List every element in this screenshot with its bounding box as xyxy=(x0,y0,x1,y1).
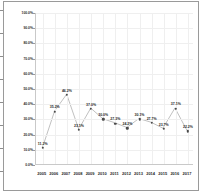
gridline-vertical xyxy=(127,13,128,164)
x-axis-tick-label: 2009 xyxy=(86,171,95,176)
y-axis-tick-label: 20.0% xyxy=(23,133,33,137)
y-axis-tick-label: 10.0% xyxy=(23,148,33,152)
x-axis-tick-label: 2006 xyxy=(49,171,58,176)
x-axis-tick-label: 2011 xyxy=(110,171,119,176)
y-axis-tick-mark xyxy=(33,165,35,166)
y-axis-tick-label: 100.0% xyxy=(22,11,34,15)
data-point-label: 23.1% xyxy=(74,124,84,128)
x-axis-tick-label: 2017 xyxy=(182,171,191,176)
data-point-label: 27.7% xyxy=(147,117,157,121)
y-axis-tick-label: 60.0% xyxy=(23,72,33,76)
chart-screenshot: 100.0%90.0%80.0%70.0%60.0%50.0%40.0%30.0… xyxy=(0,0,201,194)
plot-area: 11.2%35.2%46.2%23.1%37.0%30.0%27.3%24.2%… xyxy=(35,13,193,165)
data-point-label: 30.0% xyxy=(98,113,108,117)
x-axis-tick-label: 2007 xyxy=(61,171,70,176)
y-axis-tick-label: 70.0% xyxy=(23,57,33,61)
y-axis-tick-label: 80.0% xyxy=(23,41,33,45)
x-axis-tick-label: 2008 xyxy=(74,171,83,176)
data-point-label: 30.1% xyxy=(135,113,145,117)
x-axis-labels: 2005200620072008200920102011201220132014… xyxy=(35,168,193,182)
gridline-vertical xyxy=(91,13,92,164)
data-point-label: 27.3% xyxy=(110,117,120,121)
x-axis-tick-label: 2005 xyxy=(37,171,46,176)
line-chart: 100.0%90.0%80.0%70.0%60.0%50.0%40.0%30.0… xyxy=(5,4,197,190)
x-axis-tick-label: 2012 xyxy=(122,171,131,176)
y-axis-tick-label: 30.0% xyxy=(23,117,33,121)
data-point-label: 46.2% xyxy=(62,89,72,93)
gridline-vertical xyxy=(103,13,104,164)
gridline-vertical xyxy=(164,13,165,164)
y-axis-tick-label: 40.0% xyxy=(23,102,33,106)
gridline-vertical xyxy=(55,13,56,164)
data-point-label: 37.1% xyxy=(171,102,181,106)
x-axis-tick-label: 2016 xyxy=(170,171,179,176)
y-axis-tick-label: 90.0% xyxy=(23,26,33,30)
data-point-label: 11.2% xyxy=(38,142,48,146)
data-point-label: 22.2% xyxy=(183,125,193,129)
gridline-vertical xyxy=(79,13,80,164)
y-axis-tick-label: 50.0% xyxy=(23,87,33,91)
x-axis-tick-label: 2015 xyxy=(158,171,167,176)
x-axis-tick-label: 2013 xyxy=(134,171,143,176)
y-axis-tick-label: 0.0% xyxy=(25,163,33,167)
data-point-label: 35.2% xyxy=(50,105,60,109)
gridline-vertical xyxy=(176,13,177,164)
gridline-horizontal xyxy=(36,165,193,166)
x-axis-tick-label: 2010 xyxy=(98,171,107,176)
x-axis-tick-label: 2014 xyxy=(146,171,155,176)
gridline-vertical xyxy=(140,13,141,164)
gridline-vertical xyxy=(152,13,153,164)
y-axis-labels: 100.0%90.0%80.0%70.0%60.0%50.0%40.0%30.0… xyxy=(5,4,35,174)
gridline-vertical xyxy=(115,13,116,164)
gridline-vertical xyxy=(188,13,189,164)
data-point-label: 23.7% xyxy=(159,123,169,127)
data-point-label: 24.2% xyxy=(122,122,132,126)
data-point-label: 37.0% xyxy=(86,103,96,107)
